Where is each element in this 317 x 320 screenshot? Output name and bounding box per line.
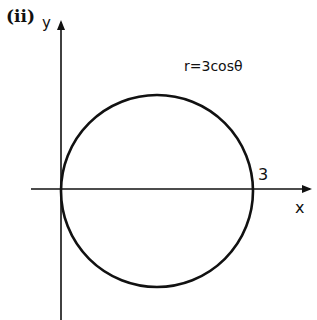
polar-plot — [0, 0, 317, 320]
part-label: (ii) — [6, 6, 35, 26]
circle-curve — [61, 95, 253, 287]
curve-equation-label: r=3cosθ — [184, 58, 243, 74]
intercept-label: 3 — [258, 165, 268, 184]
x-axis-label: x — [295, 198, 304, 217]
y-axis-label: y — [42, 14, 51, 32]
